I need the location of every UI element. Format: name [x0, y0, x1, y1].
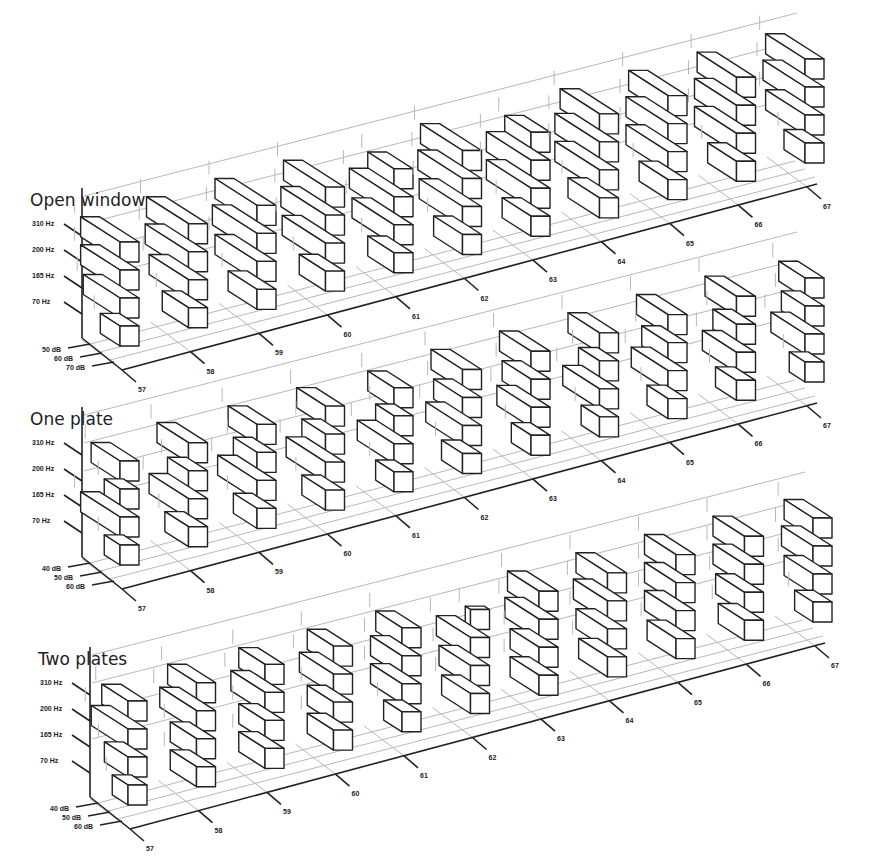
- depth-tick-label: 60 dB: [54, 355, 73, 362]
- x-tick-label: 66: [763, 680, 771, 687]
- depth-tick-label: 60 dB: [66, 583, 85, 590]
- bar-57-310Hz: [85, 425, 139, 481]
- frequency-label: 165 Hz: [32, 272, 55, 279]
- frequency-label: 165 Hz: [40, 731, 63, 738]
- stacked-3d-bar-charts: 575859606162636465666750 dB60 dB70 dB310…: [0, 0, 896, 867]
- panel-title: One plate: [30, 409, 113, 429]
- panel-two-plates: 575859606162636465666740 dB50 dB60 dB310…: [37, 472, 839, 852]
- x-tick-label: 60: [344, 550, 352, 557]
- x-tick-label: 62: [481, 514, 489, 521]
- frequency-label: 310 Hz: [32, 220, 55, 227]
- frequency-label: 200 Hz: [32, 246, 55, 253]
- x-tick-label: 57: [146, 845, 154, 852]
- x-tick-label: 57: [138, 386, 146, 393]
- depth-tick-label: 70 dB: [66, 364, 85, 371]
- x-tick-label: 63: [549, 276, 557, 283]
- bar-67-310Hz: [773, 243, 824, 298]
- frequency-label: 310 Hz: [32, 439, 55, 446]
- depth-tick-label: 40 dB: [42, 565, 61, 572]
- x-tick-label: 65: [686, 240, 694, 247]
- depth-tick-label: 50 dB: [62, 814, 81, 821]
- depth-tick-label: 50 dB: [54, 574, 73, 581]
- frequency-label: 70 Hz: [40, 757, 59, 764]
- x-tick-label: 57: [138, 605, 146, 612]
- panel-title: Open window: [30, 190, 145, 210]
- x-tick-label: 66: [755, 221, 763, 228]
- panel-one-plate: 575859606162636465666740 dB50 dB60 dB310…: [30, 232, 831, 612]
- x-tick-label: 60: [352, 790, 360, 797]
- frequency-label: 165 Hz: [32, 491, 55, 498]
- frequency-label: 200 Hz: [32, 465, 55, 472]
- depth-tick-label: 40 dB: [50, 805, 69, 812]
- x-tick-label: 61: [420, 772, 428, 779]
- x-tick-label: 67: [823, 422, 831, 429]
- x-tick-label: 65: [686, 459, 694, 466]
- x-tick-label: 67: [831, 662, 839, 669]
- x-tick-label: 64: [626, 717, 634, 724]
- depth-tick-label: 60 dB: [74, 823, 93, 830]
- bar-64-310Hz: [562, 295, 619, 353]
- x-tick-label: 64: [618, 258, 626, 265]
- x-tick-label: 61: [412, 313, 420, 320]
- x-tick-label: 62: [481, 295, 489, 302]
- bar-66-310Hz: [699, 258, 756, 316]
- frequency-label: 200 Hz: [40, 705, 63, 712]
- frequency-label: 70 Hz: [32, 517, 51, 524]
- x-tick-label: 59: [275, 568, 283, 575]
- depth-tick-label: 50 dB: [42, 346, 61, 353]
- x-tick-label: 63: [557, 735, 565, 742]
- frequency-label: 310 Hz: [40, 679, 63, 686]
- x-tick-label: 60: [344, 331, 352, 338]
- x-tick-label: 58: [207, 368, 215, 375]
- x-tick-label: 58: [215, 827, 223, 834]
- bar-59-310Hz: [222, 388, 276, 444]
- panel-title: Two plates: [37, 649, 127, 669]
- x-tick-label: 63: [549, 495, 557, 502]
- x-tick-label: 59: [275, 349, 283, 356]
- x-tick-label: 67: [823, 203, 831, 210]
- x-tick-label: 62: [489, 754, 497, 761]
- x-tick-label: 59: [283, 808, 291, 815]
- x-tick-label: 58: [207, 587, 215, 594]
- x-tick-label: 64: [618, 477, 626, 484]
- x-tick-label: 61: [412, 532, 420, 539]
- x-tick-label: 65: [694, 699, 702, 706]
- frequency-label: 70 Hz: [32, 298, 51, 305]
- x-tick-label: 66: [755, 440, 763, 447]
